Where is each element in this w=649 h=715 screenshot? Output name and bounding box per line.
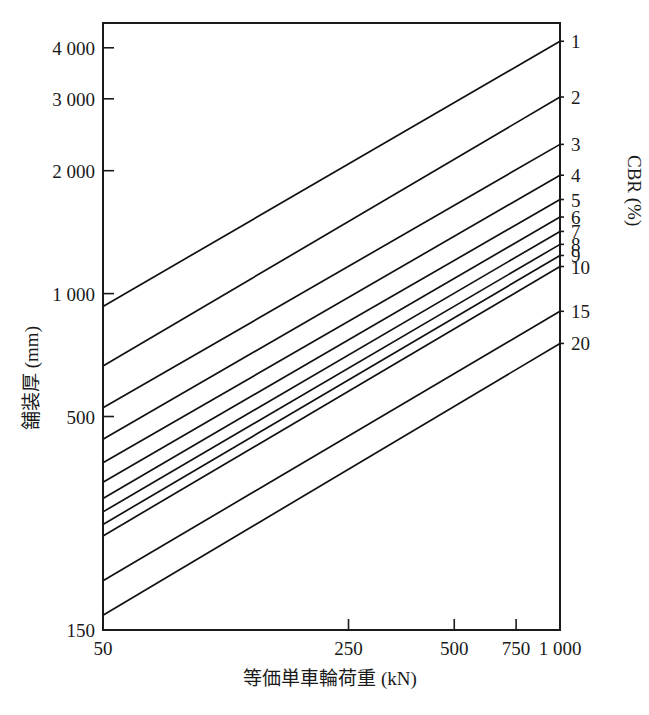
series-label-cbr-20: 20 <box>571 333 590 354</box>
x-tick-label: 750 <box>502 638 531 659</box>
series-label-cbr-2: 2 <box>571 87 581 108</box>
right-axis-title: CBR (%) <box>623 155 645 226</box>
y-tick-label: 3 000 <box>52 89 95 110</box>
data-series-line-7 <box>103 231 560 498</box>
data-series-line-2 <box>103 97 560 366</box>
y-tick-label: 4 000 <box>52 38 95 59</box>
x-axis-title: 等価単車輪荷重 (kN) <box>243 668 417 690</box>
chart-figure: 1505001 0002 0003 0004 000 502505007501 … <box>0 0 649 715</box>
data-series-line-5 <box>103 200 560 463</box>
series-label-cbr-10: 10 <box>571 257 590 278</box>
x-tick-label: 50 <box>94 638 113 659</box>
series-label-cbr-4: 4 <box>571 165 581 186</box>
x-axis-tick-labels: 502505007501 000 <box>94 638 582 659</box>
y-tick-label: 2 000 <box>52 161 95 182</box>
series-label-cbr-1: 1 <box>571 31 581 52</box>
series-end-labels: 123456789101520 <box>571 31 590 354</box>
series-label-cbr-3: 3 <box>571 134 581 155</box>
x-tick-label: 250 <box>334 638 363 659</box>
y-axis-title: 舗装厚 (mm) <box>21 326 43 430</box>
series-label-cbr-15: 15 <box>571 301 590 322</box>
x-tick-label: 500 <box>440 638 469 659</box>
y-tick-label: 500 <box>67 407 96 428</box>
data-series-line-9 <box>103 255 560 524</box>
data-series-group <box>103 41 560 615</box>
x-axis-ticks <box>349 619 517 630</box>
data-series-line-8 <box>103 244 560 512</box>
y-tick-label: 1 000 <box>52 284 95 305</box>
data-series-line-1 <box>103 41 560 306</box>
data-series-line-20 <box>103 343 560 615</box>
data-series-line-6 <box>103 217 560 482</box>
chart-canvas: 1505001 0002 0003 0004 000 502505007501 … <box>0 0 649 715</box>
x-tick-label: 1 000 <box>539 638 582 659</box>
data-series-line-3 <box>103 144 560 407</box>
data-series-line-15 <box>103 311 560 580</box>
y-tick-label: 150 <box>67 620 96 641</box>
y-axis-tick-labels: 1505001 0002 0003 0004 000 <box>52 38 95 641</box>
